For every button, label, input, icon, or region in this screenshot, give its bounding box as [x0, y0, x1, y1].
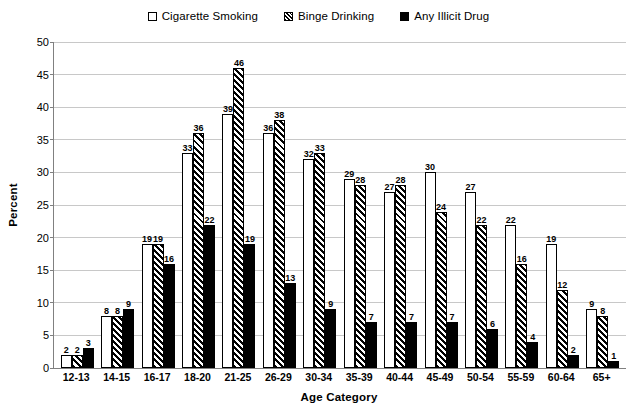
bar: 19 — [142, 244, 153, 368]
bar: 6 — [487, 329, 498, 368]
y-axis-tick-label: 50 — [37, 36, 49, 48]
x-axis-tick-label: 16-17 — [137, 371, 177, 383]
bar-group: 394619 — [219, 42, 259, 368]
bar-value-label: 8 — [115, 307, 120, 316]
y-axis-tick-label: 15 — [37, 264, 49, 276]
legend-item-cigarette-smoking: Cigarette Smoking — [148, 10, 258, 22]
bar-value-label: 22 — [204, 216, 214, 225]
bar-value-label: 16 — [517, 255, 527, 264]
bar: 32 — [303, 159, 314, 368]
bar-value-label: 1 — [611, 352, 616, 361]
bar-value-label: 19 — [153, 235, 163, 244]
bar: 7 — [366, 322, 377, 368]
bar-value-label: 27 — [385, 183, 395, 192]
bar: 22 — [476, 225, 487, 368]
legend-item-any-illicit-drug: Any Illicit Drug — [400, 10, 489, 22]
bar-value-label: 9 — [589, 300, 594, 309]
bar: 36 — [263, 133, 274, 368]
x-axis-tick-label: 18-20 — [177, 371, 217, 383]
bar: 3 — [83, 348, 94, 368]
bar-value-label: 2 — [75, 346, 80, 355]
legend-item-binge-drinking: Binge Drinking — [284, 10, 374, 22]
bar-value-label: 8 — [600, 307, 605, 316]
y-axis-tick-label: 20 — [37, 232, 49, 244]
bar: 22 — [505, 225, 516, 368]
bar: 9 — [123, 309, 134, 368]
bar-value-label: 3 — [86, 339, 91, 348]
x-axis-tick-label: 35-39 — [339, 371, 379, 383]
x-axis-tick-label: 21-25 — [218, 371, 258, 383]
bar: 4 — [527, 342, 538, 368]
bar-value-label: 32 — [304, 150, 314, 159]
bar: 7 — [447, 322, 458, 368]
bar: 27 — [384, 192, 395, 368]
bar-group: 19122 — [542, 42, 582, 368]
x-axis-tick-label: 14-15 — [96, 371, 136, 383]
x-axis-tick-label: 45-49 — [420, 371, 460, 383]
y-axis-tick-label: 35 — [37, 134, 49, 146]
bar-value-label: 19 — [142, 235, 152, 244]
y-axis-tick-label: 40 — [37, 101, 49, 113]
x-axis-tick-label: 50-54 — [460, 371, 500, 383]
y-axis-title: Percent — [5, 42, 21, 368]
bar: 30 — [425, 172, 436, 368]
bar-value-label: 33 — [182, 144, 192, 153]
bar: 19 — [153, 244, 164, 368]
plot-area: 05101520253035404550 2238891919163336223… — [53, 42, 626, 368]
bar-value-label: 9 — [328, 300, 333, 309]
x-axis-tick-labels: 12-1314-1516-1718-2021-2526-2930-3435-39… — [53, 371, 625, 383]
solid-square-icon — [400, 12, 409, 21]
bar: 2 — [72, 355, 83, 368]
bar: 19 — [546, 244, 557, 368]
x-axis-tick-label: 55-59 — [501, 371, 541, 383]
x-axis-tick-label: 40-44 — [379, 371, 419, 383]
y-axis-tick-label: 10 — [37, 297, 49, 309]
bar-group: 32339 — [300, 42, 340, 368]
bar-value-label: 29 — [344, 170, 354, 179]
bar: 38 — [274, 120, 285, 368]
bar-value-label: 2 — [64, 346, 69, 355]
bar-group: 22164 — [502, 42, 542, 368]
bar: 29 — [344, 179, 355, 368]
bar-groups: 2238891919163336223946193638133233929287… — [54, 42, 626, 368]
bar: 39 — [222, 114, 233, 368]
bar: 36 — [193, 133, 204, 368]
bar-value-label: 38 — [274, 111, 284, 120]
y-axis-tick-label: 30 — [37, 166, 49, 178]
x-axis-tick-label: 30-34 — [299, 371, 339, 383]
bar: 13 — [285, 283, 296, 368]
bar-value-label: 7 — [369, 313, 374, 322]
bar-group: 333622 — [178, 42, 218, 368]
bar-value-label: 39 — [223, 105, 233, 114]
bar-group: 223 — [57, 42, 97, 368]
y-axis-tick-label: 5 — [43, 329, 49, 341]
chart-legend: Cigarette Smoking Binge Drinking Any Ill… — [0, 10, 637, 22]
bar-value-label: 12 — [557, 281, 567, 290]
x-axis-tick-label: 65+ — [581, 371, 621, 383]
bar: 46 — [233, 68, 244, 368]
legend-label-cigarette-smoking: Cigarette Smoking — [162, 10, 258, 22]
bar-value-label: 33 — [315, 144, 325, 153]
bar: 7 — [406, 322, 417, 368]
y-axis-tick-label: 0 — [43, 362, 49, 374]
bar-group: 191916 — [138, 42, 178, 368]
open-square-icon — [148, 12, 157, 21]
x-axis-tick-label: 26-29 — [258, 371, 298, 383]
bar-value-label: 19 — [245, 235, 255, 244]
bar: 28 — [355, 185, 366, 368]
bar: 8 — [112, 316, 123, 368]
y-axis-tick-label: 25 — [37, 199, 49, 211]
bar: 2 — [61, 355, 72, 368]
bar-group: 27226 — [461, 42, 501, 368]
bar: 12 — [557, 290, 568, 368]
bar: 9 — [586, 309, 597, 368]
bar: 27 — [465, 192, 476, 368]
bar-value-label: 22 — [476, 216, 486, 225]
bar-group: 889 — [97, 42, 137, 368]
bar-value-label: 7 — [449, 313, 454, 322]
bar: 24 — [436, 212, 447, 368]
hatched-square-icon — [284, 12, 293, 21]
bar-value-label: 24 — [436, 203, 446, 212]
bar-value-label: 36 — [263, 124, 273, 133]
bar-value-label: 46 — [234, 59, 244, 68]
